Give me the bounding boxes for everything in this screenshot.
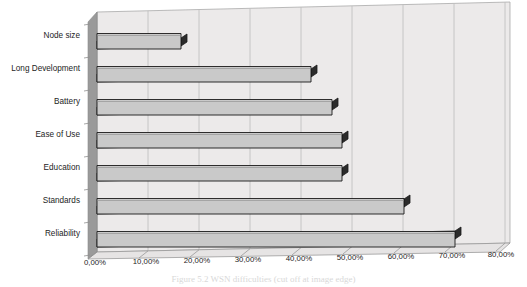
- x-tick-30: 30,00%: [235, 255, 262, 264]
- y-axis-labels: Node size Long Development Battery Ease …: [11, 31, 81, 238]
- y-label-education: Education: [44, 163, 81, 172]
- y-label-node-size: Node size: [44, 31, 81, 40]
- figure-caption: Figure 5.2 WSN difficulties (cut off at …: [0, 272, 527, 286]
- bar-education: [97, 164, 348, 181]
- y-label-battery: Battery: [54, 97, 81, 106]
- x-tick-40: 40,00%: [286, 254, 313, 263]
- y-label-ease-of-use: Ease of Use: [35, 130, 80, 139]
- y-label-long-development: Long Development: [11, 64, 80, 73]
- x-tick-80: 80,00%: [488, 250, 515, 259]
- bar-long-development: [97, 65, 317, 82]
- y-label-reliability: Reliability: [45, 229, 81, 238]
- bar-chart: Node size Long Development Battery Ease …: [0, 0, 527, 287]
- bar-battery: [97, 98, 338, 115]
- bar-ease-of-use: [97, 131, 348, 148]
- figure-container: Node size Long Development Battery Ease …: [0, 0, 527, 287]
- x-tick-70: 70,00%: [439, 251, 466, 260]
- bar-node-size: [97, 34, 187, 50]
- x-tick-60: 60,00%: [388, 252, 415, 261]
- x-tick-0: 0,00%: [84, 258, 106, 267]
- x-tick-20: 20,00%: [184, 256, 211, 265]
- x-tick-10: 10,00%: [133, 257, 160, 266]
- y-label-standards: Standards: [43, 196, 80, 205]
- x-tick-50: 50,00%: [337, 253, 364, 262]
